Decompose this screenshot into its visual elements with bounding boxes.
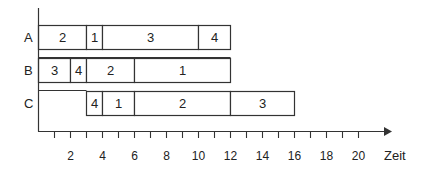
row-c: C4123 [24,92,295,116]
tick-label: 10 [192,149,206,163]
task-label: 4 [75,63,82,78]
tick-label: 12 [224,149,238,163]
tick-label: 4 [99,149,106,163]
task-label: 4 [91,96,98,111]
task-label: 1 [179,63,186,78]
task-label: 1 [91,30,98,45]
tick-label: 16 [288,149,302,163]
task-label: 2 [107,63,114,78]
row-a: A2134 [24,26,231,50]
arrow-head-icon [384,127,392,136]
tick-label: 6 [131,149,138,163]
task-label: 3 [51,63,58,78]
row-label: B [24,63,33,78]
tick-label: 20 [352,149,366,163]
task-label: 2 [59,30,66,45]
task-label: 1 [115,96,122,111]
row-label: A [24,30,33,45]
tick-label: 18 [320,149,334,163]
task-label: 2 [179,96,186,111]
gantt-diagram: A2134B3421C4123 2468101214161820 Zeit [0,0,427,170]
task-label: 3 [147,30,154,45]
task-label: 3 [259,96,266,111]
row-b: B3421 [24,59,231,83]
task-label: 4 [211,30,218,45]
axis-label: Zeit [384,148,406,163]
row-label: C [24,96,33,111]
tick-label: 14 [256,149,270,163]
tick-label: 8 [163,149,170,163]
tick-label: 2 [67,149,74,163]
